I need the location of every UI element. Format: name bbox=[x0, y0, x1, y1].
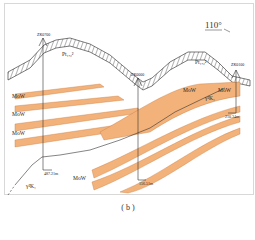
intrusion-label-right: γ²K₁ bbox=[205, 96, 215, 102]
ore-label-mow-1: MoW bbox=[12, 94, 25, 100]
ore-bands-left bbox=[15, 84, 140, 147]
borehole-label-zk0100: ZK0100 bbox=[231, 63, 244, 67]
stratum-label-cover-left: Pt₁,₂² bbox=[62, 52, 73, 58]
borehole-label-zk0000: ZK0000 bbox=[131, 73, 144, 77]
direction-arrow-icon bbox=[224, 29, 230, 32]
depth-label-zk0700: 487.21m bbox=[44, 172, 58, 176]
figure-caption: ( b ) bbox=[121, 203, 134, 212]
borehole-label-zk0700: ZK0700 bbox=[37, 33, 50, 37]
orientation-label: 110° bbox=[205, 20, 222, 30]
depth-label-zk0000: 156.51m bbox=[139, 182, 153, 186]
ore-label-mow-6: MoW bbox=[218, 88, 231, 94]
stratum-label-cover-right: Pt₁,₂² bbox=[195, 60, 206, 66]
intrusion-label-left: γ²K₁ bbox=[26, 184, 36, 190]
topography-cover-layer bbox=[8, 38, 250, 90]
depth-label-zk0100: 210.34m bbox=[225, 115, 239, 119]
ore-label-mow-4: MoW bbox=[73, 176, 86, 182]
ore-label-mow-2: MoW bbox=[12, 112, 25, 118]
ore-label-mow-5: MoW bbox=[183, 88, 196, 94]
ore-label-mow-3: MoW bbox=[12, 131, 25, 137]
